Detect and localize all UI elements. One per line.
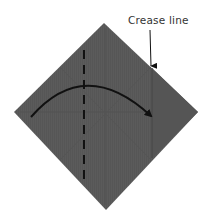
pointer-arrow-icon — [150, 30, 151, 66]
origami-diagram — [0, 0, 209, 215]
crease-line-label: Crease line — [128, 14, 189, 26]
crease-shade-region — [152, 68, 198, 158]
